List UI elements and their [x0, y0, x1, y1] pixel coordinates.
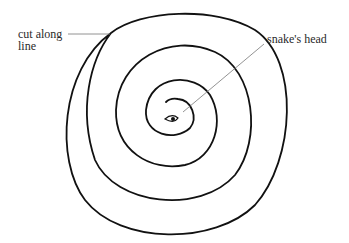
snakes-head-label: snake's head — [267, 33, 327, 45]
head-leader-line — [183, 44, 264, 112]
spiral-cut-line — [67, 14, 287, 235]
cut-label-line-2: line — [18, 40, 62, 52]
cut-along-line-label: cut along line — [18, 28, 62, 52]
snake-eye-icon — [165, 116, 178, 122]
